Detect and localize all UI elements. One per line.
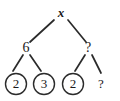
edge-left-internal-to-leaf-1 <box>13 55 23 71</box>
tree-node-right-internal-label: ? <box>82 41 94 55</box>
edge-left-internal-to-leaf-2 <box>30 55 41 71</box>
edge-root-to-right-internal <box>68 20 86 42</box>
binary-tree-figure: x 6 ? 2 3 2 ? <box>0 0 120 101</box>
tree-node-root-label: x <box>55 6 67 19</box>
tree-leaf-label-4: ? <box>95 77 107 90</box>
edge-right-internal-to-leaf-4 <box>92 55 101 73</box>
tree-node-left-internal-label: 6 <box>20 41 32 55</box>
tree-leaf-label-3: 2 <box>67 77 79 90</box>
tree-leaf-label-2: 3 <box>38 77 50 90</box>
edge-root-to-left-internal <box>30 20 54 42</box>
tree-leaf-label-1: 2 <box>10 77 22 90</box>
edge-right-internal-to-leaf-3 <box>75 55 85 71</box>
